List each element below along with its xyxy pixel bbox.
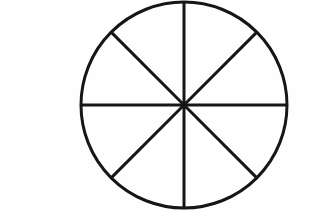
pie-divider-line: [184, 32, 257, 105]
pie-divider-line: [111, 32, 184, 105]
pie-divider-line: [184, 105, 257, 178]
diagram-canvas: [0, 0, 311, 213]
pie-chart: [75, 0, 293, 213]
choice-label-d: [13, 80, 65, 120]
pie-divider-line: [111, 105, 184, 178]
pie-svg: [75, 0, 293, 213]
